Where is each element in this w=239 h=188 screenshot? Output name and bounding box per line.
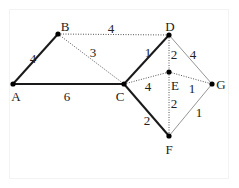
graph-canvas: 461243421241ABCDEFG [0,0,239,188]
edge-weight-b-c: 3 [90,45,97,60]
node-label-e: E [171,78,179,93]
edge-weight-e-f: 2 [171,96,178,111]
edge-weight-e-g: 1 [189,81,196,96]
node-e [166,69,171,74]
edges-layer [13,34,212,136]
edge-weight-g-f: 1 [196,105,203,120]
node-g [209,81,214,86]
node-label-b: B [61,19,70,34]
node-label-f: F [165,142,172,157]
node-label-c: C [116,89,125,104]
edge-weight-b-d: 4 [108,21,115,36]
node-a [10,81,15,86]
node-label-a: A [11,89,21,104]
edge-weight-a-c: 6 [64,89,71,104]
node-label-g: G [216,77,225,92]
node-f [166,133,171,138]
edge-weight-c-e: 4 [145,79,152,94]
node-c [121,81,126,86]
node-label-d: D [165,19,174,34]
edge-weight-c-d: 1 [145,45,152,60]
labels-layer: 461243421241ABCDEFG [11,19,225,157]
edge-weight-d-g: 4 [190,47,197,62]
edge-weight-a-b: 4 [30,51,37,66]
edge-weight-c-f: 2 [144,113,151,128]
edge-weight-d-e: 2 [171,47,178,62]
